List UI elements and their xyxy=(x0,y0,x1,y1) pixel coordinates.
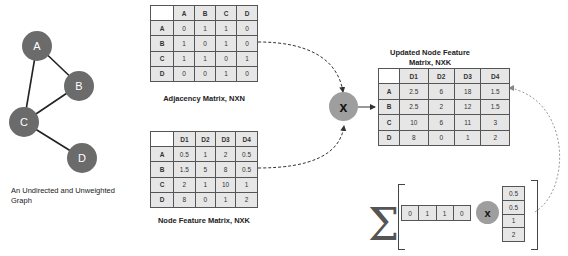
matrix-cell: 1 xyxy=(174,36,195,51)
adjacency-caption: Adjacency Matrix, NXN xyxy=(150,94,258,104)
table-row: A0.5120.5 xyxy=(151,147,258,162)
matrix-cell: B xyxy=(379,99,400,114)
matrix-cell: D xyxy=(379,130,400,145)
matrix-cell: D3 xyxy=(454,69,480,84)
table-row: A0110 xyxy=(151,21,258,36)
matrix-cell: 0 xyxy=(402,206,419,221)
graph-node-b: B xyxy=(64,71,94,101)
matrix-cell: 8 xyxy=(174,192,196,207)
graph-node-a: A xyxy=(22,31,52,61)
matrix-cell: 3 xyxy=(481,115,510,130)
adjacency-to-multiply-arrow xyxy=(258,42,343,92)
multiply-icon-small: x xyxy=(476,201,499,224)
updated-feature-matrix: D1D2D3D4 A2.56181.5 B2.52121.5 C106113 D… xyxy=(378,68,510,146)
matrix-cell: 0 xyxy=(174,21,195,36)
matrix-cell: 12 xyxy=(454,99,480,114)
matrix-cell: D4 xyxy=(481,69,510,84)
matrix-cell: 0 xyxy=(195,36,216,51)
matrix-cell: 10 xyxy=(400,115,429,130)
matrix-cell: 10 xyxy=(215,177,235,192)
features-to-multiply-arrow xyxy=(258,126,344,168)
matrix-cell: 2.5 xyxy=(400,84,429,99)
matrix-cell: 0 xyxy=(428,130,454,145)
matrix-cell: 0 xyxy=(237,66,258,81)
table-row: C106113 xyxy=(379,115,510,130)
matrix-cell: 0 xyxy=(216,51,237,66)
matrix-cell: D1 xyxy=(400,69,429,84)
matrix-cell: 2 xyxy=(481,130,510,145)
matrix-cell: 0 xyxy=(237,36,258,51)
graph-node-c: C xyxy=(9,107,39,137)
matrix-cell: 1.5 xyxy=(174,162,196,177)
matrix-cell: D2 xyxy=(195,132,215,147)
matrix-cell: C xyxy=(151,177,174,192)
table-row: A2.56181.5 xyxy=(379,84,510,99)
matrix-cell: 11 xyxy=(454,115,480,130)
feature-matrix: D1D2D3D4 A0.5120.5 B1.5580.5 C21101 D801… xyxy=(150,131,258,208)
matrix-cell: Updated Node Feature xyxy=(374,48,486,58)
matrix-cell: 1 xyxy=(237,51,258,66)
matrix-cell: B xyxy=(151,162,174,177)
table-row: B1010 xyxy=(151,36,258,51)
matrix-cell: 1 xyxy=(419,206,436,221)
sigma-icon: Σ xyxy=(368,203,399,247)
matrix-cell: 1 xyxy=(236,177,258,192)
matrix-cell: 0 xyxy=(453,206,470,221)
matrix-cell: 1.5 xyxy=(481,84,510,99)
matrix-cell: A xyxy=(151,147,174,162)
matrix-cell: An Undirected and Unweighted xyxy=(11,186,115,196)
matrix-cell: D2 xyxy=(428,69,454,84)
graph-caption: An Undirected and Unweighted Graph xyxy=(11,186,115,206)
matrix-cell: 0.5 xyxy=(503,200,525,214)
matrix-cell: 1 xyxy=(436,206,453,221)
table-row: D0010 xyxy=(151,66,258,81)
matrix-cell: 1 xyxy=(216,66,237,81)
matrix-cell: 2 xyxy=(428,99,454,114)
table-row: B2.52121.5 xyxy=(379,99,510,114)
matrix-cell: 2 xyxy=(215,147,235,162)
table-row: D8012 xyxy=(379,130,510,145)
matrix-cell: 8 xyxy=(215,162,235,177)
matrix-cell: 2.5 xyxy=(400,99,429,114)
graph-edges xyxy=(24,45,82,158)
matrix-cell: D xyxy=(151,66,174,81)
matrix-cell: D xyxy=(151,192,174,207)
graph-node-d: D xyxy=(67,143,97,173)
matrix-cell: 0.5 xyxy=(236,162,258,177)
matrix-cell: A xyxy=(151,21,174,36)
matrix-cell: D1 xyxy=(174,132,196,147)
matrix-cell: 1.5 xyxy=(481,99,510,114)
matrix-cell: 1 xyxy=(215,192,235,207)
matrix-cell: 0.5 xyxy=(174,147,196,162)
matrix-cell: 6 xyxy=(428,84,454,99)
matrix-cell: 6 xyxy=(428,115,454,130)
matrix-cell: 2 xyxy=(174,177,196,192)
row-vector: 0110 xyxy=(401,205,471,221)
matrix-cell: 1 xyxy=(216,21,237,36)
matrix-cell: D xyxy=(237,6,258,21)
matrix-cell: 0.5 xyxy=(503,187,525,201)
right-bracket xyxy=(531,180,538,250)
matrix-cell: 0 xyxy=(195,192,215,207)
matrix-cell: C xyxy=(379,115,400,130)
adjacency-matrix: A B C D A0110 B1010 C1101 D0010 xyxy=(150,5,258,82)
matrix-cell: 18 xyxy=(454,84,480,99)
matrix-cell: 1 xyxy=(216,36,237,51)
matrix-cell: 0 xyxy=(195,66,216,81)
matrix-cell: 8 xyxy=(400,130,429,145)
table-row: C1101 xyxy=(151,51,258,66)
table-row: D8012 xyxy=(151,192,258,207)
matrix-cell: C xyxy=(151,51,174,66)
matrix-cell: 2 xyxy=(503,228,525,242)
matrix-cell: 0 xyxy=(237,21,258,36)
updated-caption: Updated Node Feature Matrix, NXK xyxy=(374,48,486,68)
matrix-cell: 1 xyxy=(195,147,215,162)
multiply-icon: x xyxy=(329,92,358,121)
column-vector: 0.5 0.5 1 2 xyxy=(502,186,525,242)
matrix-cell: D4 xyxy=(236,132,258,147)
matrix-cell: D3 xyxy=(215,132,235,147)
matrix-cell: 1 xyxy=(174,51,195,66)
matrix-cell: 1 xyxy=(195,51,216,66)
table-row: C21101 xyxy=(151,177,258,192)
matrix-cell: Graph xyxy=(11,196,115,206)
